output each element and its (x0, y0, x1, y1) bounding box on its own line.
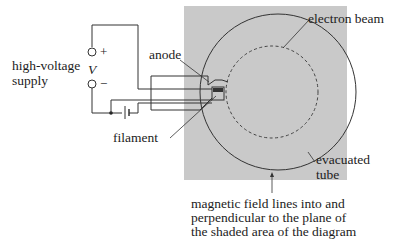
positive-terminal (88, 48, 96, 56)
evacuated-tube-label-line1: evacuated (316, 153, 370, 167)
evacuated-tube-label-line2: tube (316, 168, 339, 182)
electron-beam-label: electron beam (308, 12, 384, 26)
voltage-symbol: V (88, 63, 96, 77)
filament-coil (213, 88, 223, 92)
filament-label: filament (113, 131, 158, 145)
plus-sign: + (100, 45, 107, 59)
field-caption-line2: perpendicular to the plane of (191, 211, 346, 225)
minus-sign: − (100, 77, 107, 91)
negative-terminal (88, 80, 96, 88)
field-caption-line3: the shaded area of the diagram (191, 225, 356, 239)
field-caption-line1: magnetic field lines into and (191, 197, 345, 211)
supply-label-line2: supply (12, 74, 48, 88)
supply-label-line1: high-voltage (12, 59, 80, 73)
anode-label: anode (149, 48, 181, 62)
